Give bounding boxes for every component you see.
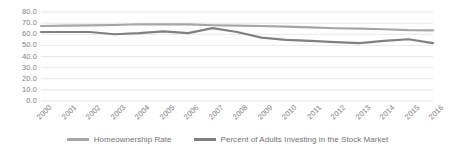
series-line-1 <box>41 24 433 30</box>
x-axis-tick-label: 2009 <box>255 103 273 121</box>
legend-swatch-icon <box>194 138 216 141</box>
series-lines <box>41 12 433 101</box>
x-axis-tick-label: 2008 <box>231 103 249 121</box>
legend-label: Homeownership Rate <box>94 135 172 144</box>
legend-swatch-icon <box>67 138 89 141</box>
legend-item[interactable]: Homeownership Rate <box>67 135 172 144</box>
y-axis-tick-label: 80.0 <box>0 8 37 16</box>
x-axis-tick-label: 2003 <box>108 103 126 121</box>
x-axis-tick-label: 2007 <box>206 103 224 121</box>
y-axis-tick-label: 40.0 <box>0 53 37 61</box>
x-axis-tick-label: 2002 <box>84 103 102 121</box>
line-chart: 0.010.020.030.040.050.060.070.080.0 2000… <box>0 0 455 153</box>
y-axis-tick-label: 20.0 <box>0 75 37 83</box>
y-axis-tick-label: 30.0 <box>0 64 37 72</box>
x-axis-tick-label: 2005 <box>157 103 175 121</box>
x-axis-tick-label: 2011 <box>305 103 323 121</box>
y-axis-tick-label: 70.0 <box>0 19 37 27</box>
x-axis-tick-label: 2000 <box>35 103 53 121</box>
x-axis-tick-label: 2014 <box>378 103 396 121</box>
x-axis-tick-label: 2015 <box>402 103 420 121</box>
y-axis-tick-label: 50.0 <box>0 41 37 49</box>
chart-legend: Homeownership RatePercent of Adults Inve… <box>0 131 455 147</box>
x-axis-tick-label: 2016 <box>427 103 445 121</box>
y-axis-tick-label: 0.0 <box>0 97 37 105</box>
y-axis: 0.010.020.030.040.050.060.070.080.0 <box>0 12 37 101</box>
x-axis-tick-label: 2001 <box>59 103 77 121</box>
x-axis-tick-label: 2012 <box>329 103 347 121</box>
x-axis: 2000200120022003200420052006200720082009… <box>41 101 433 129</box>
y-axis-tick-label: 60.0 <box>0 30 37 38</box>
x-axis-tick-label: 2010 <box>280 103 298 121</box>
legend-label: Percent of Adults Investing in the Stock… <box>221 135 389 144</box>
legend-item[interactable]: Percent of Adults Investing in the Stock… <box>194 135 389 144</box>
plot-area <box>41 12 433 101</box>
x-axis-tick-label: 2004 <box>133 103 151 121</box>
series-line-2 <box>41 28 433 43</box>
y-axis-tick-label: 10.0 <box>0 86 37 94</box>
x-axis-tick-label: 2013 <box>353 103 371 121</box>
x-axis-tick-label: 2006 <box>182 103 200 121</box>
